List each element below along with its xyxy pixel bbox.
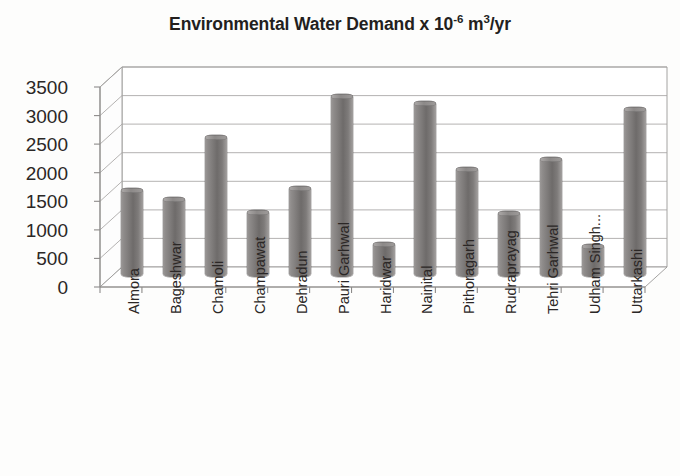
x-axis-tick-label: Pithoragarh xyxy=(462,300,476,314)
x-axis-tick-label: Haridwar xyxy=(379,300,393,314)
y-axis-tick-label: 3000 xyxy=(10,106,68,125)
y-axis-tick-label: 2500 xyxy=(10,135,68,154)
x-axis-tick-label: Rudraprayag xyxy=(504,300,518,314)
y-axis-tick-label: 500 xyxy=(10,249,68,268)
y-axis-tick-label: 2000 xyxy=(10,163,68,182)
bar xyxy=(414,101,436,277)
plot-left-wall xyxy=(100,67,122,287)
x-axis-tick-label: Udham Singh... xyxy=(588,300,602,314)
x-axis-tick-label: Champawat xyxy=(253,300,267,314)
y-axis-ticks xyxy=(94,87,100,287)
bar xyxy=(205,135,227,277)
y-axis-tick-label: 1000 xyxy=(10,220,68,239)
x-axis-tick-label: Uttarkashi xyxy=(630,300,644,314)
plot-back-wall xyxy=(122,67,667,267)
x-axis-tick-label: Almora xyxy=(127,300,141,314)
bar xyxy=(121,188,143,277)
x-axis-tick-label: Chamoli xyxy=(211,300,225,314)
x-axis-tick-label: Bageshwar xyxy=(169,300,183,314)
y-axis-tick-label: 3500 xyxy=(10,78,68,97)
x-axis-tick-label: Dehradun xyxy=(295,300,309,314)
y-axis-tick-label: 0 xyxy=(10,278,68,297)
y-axis-tick-label: 1500 xyxy=(10,192,68,211)
x-axis-tick-label: Nainital xyxy=(420,300,434,314)
chart-container: Environmental Water Demand x 10-6 m3/yr xyxy=(0,0,680,476)
x-axis-tick-label: Pauri Garhwal xyxy=(337,300,351,314)
x-axis-tick-label: Tehri Garhwal xyxy=(546,300,560,314)
